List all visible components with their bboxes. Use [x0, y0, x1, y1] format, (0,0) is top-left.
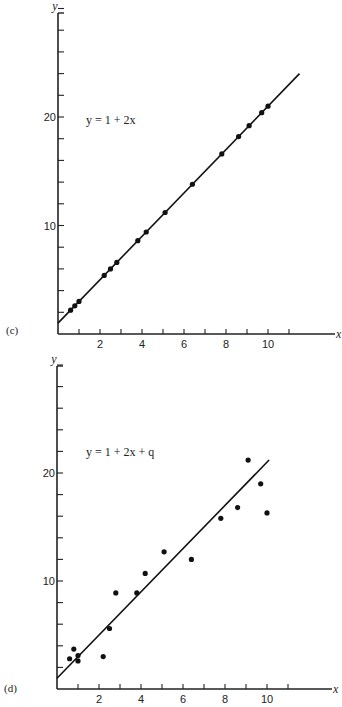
- equation-annotation: y = 1 + 2x: [86, 113, 136, 127]
- y-tick-label: 10: [44, 220, 56, 232]
- data-point: [162, 549, 167, 554]
- y-tick-label: 20: [43, 467, 55, 479]
- data-point: [265, 104, 270, 109]
- data-point: [143, 571, 148, 576]
- data-point: [235, 505, 240, 510]
- data-point: [236, 134, 241, 139]
- panel-label: (d): [4, 682, 17, 695]
- y-tick-label: 20: [44, 111, 56, 123]
- data-point: [101, 654, 106, 659]
- y-axis-label: y: [51, 0, 58, 13]
- data-point: [134, 590, 139, 595]
- data-point: [107, 626, 112, 631]
- data-point: [246, 457, 251, 462]
- data-point: [102, 273, 107, 278]
- x-tick-label: 8: [223, 338, 229, 350]
- data-point: [67, 656, 72, 661]
- data-point: [108, 266, 113, 271]
- panel-c: 2468101020yx(c)y = 1 + 2x: [6, 0, 342, 350]
- data-point: [71, 646, 76, 651]
- x-tick-label: 4: [139, 338, 145, 350]
- data-point: [189, 557, 194, 562]
- data-point: [76, 299, 81, 304]
- chart-canvas: 2468101020yx(c)y = 1 + 2x 2468101020yx(d…: [0, 0, 342, 707]
- data-point: [258, 481, 263, 486]
- y-tick-label: 10: [43, 575, 55, 587]
- x-axis-label: x: [335, 327, 342, 341]
- panel-label: (c): [6, 324, 19, 337]
- data-point: [259, 110, 264, 115]
- x-tick-label: 6: [180, 693, 186, 705]
- x-tick-label: 2: [97, 338, 103, 350]
- regression-line: [57, 460, 269, 678]
- data-point: [68, 308, 73, 313]
- data-point: [72, 303, 77, 308]
- data-point: [135, 238, 140, 243]
- data-point: [219, 151, 224, 156]
- data-point: [247, 123, 252, 128]
- data-point: [218, 516, 223, 521]
- x-axis-label: x: [332, 682, 339, 696]
- x-tick-label: 10: [261, 693, 273, 705]
- data-point: [114, 260, 119, 265]
- y-axis-label: y: [50, 352, 57, 366]
- data-point: [190, 182, 195, 187]
- data-point: [113, 590, 118, 595]
- data-point: [264, 510, 269, 515]
- data-point: [75, 653, 80, 658]
- panel-d: 2468101020yx(d)y = 1 + 2x + q: [4, 352, 339, 705]
- data-point: [75, 658, 80, 663]
- x-tick-label: 4: [138, 693, 144, 705]
- data-point: [144, 229, 149, 234]
- data-point: [163, 210, 168, 215]
- equation-annotation: y = 1 + 2x + q: [86, 445, 154, 459]
- x-tick-label: 10: [262, 338, 274, 350]
- x-tick-label: 6: [181, 338, 187, 350]
- x-tick-label: 2: [96, 693, 102, 705]
- x-tick-label: 8: [222, 693, 228, 705]
